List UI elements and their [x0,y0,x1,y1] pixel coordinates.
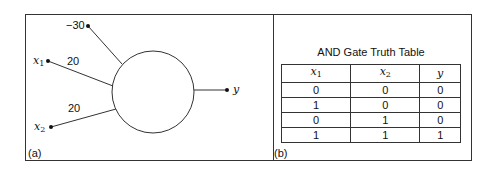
output-y-label: y [233,83,239,96]
truth-table-title: AND Gate Truth Table [281,46,461,58]
output-node [225,88,229,92]
table-header-row: x1 x2 y [282,65,461,83]
table-cell: 0 [351,98,420,113]
table-cell: 0 [420,113,461,128]
x2-label: x2 [34,120,45,134]
table-cell: 0 [351,83,420,98]
table-row: 1 1 1 [282,128,461,143]
table-cell: 0 [420,83,461,98]
table-row: 0 1 0 [282,113,461,128]
x2-edge [51,109,116,127]
bias-node [86,24,90,28]
neuron-circle [112,51,194,133]
panel-a-label: (a) [28,147,41,159]
table-cell: 0 [420,98,461,113]
table-cell: 1 [420,128,461,143]
x2-node [49,125,53,129]
column-header-x1: x1 [282,65,351,83]
x2-weight-label: 20 [68,102,80,114]
bias-edge [88,26,122,64]
table-cell: 0 [282,113,351,128]
x1-label: x1 [33,54,44,68]
truth-table: x1 x2 y 0 0 0 1 0 0 0 1 0 1 1 1 [281,64,461,143]
column-header-x2: x2 [351,65,420,83]
table-cell: 1 [282,98,351,113]
column-header-y: y [420,65,461,83]
table-cell: 1 [351,128,420,143]
table-cell: 1 [282,128,351,143]
table-row: 1 0 0 [282,98,461,113]
table-cell: 0 [282,83,351,98]
x1-weight-label: 20 [67,55,79,67]
table-cell: 1 [351,113,420,128]
x1-edge [48,61,113,86]
panel-b-label: (b) [274,147,287,159]
x1-node [46,59,50,63]
table-row: 0 0 0 [282,83,461,98]
bias-weight-label: −30 [66,19,85,31]
